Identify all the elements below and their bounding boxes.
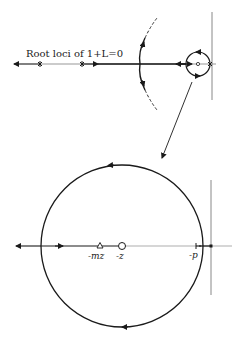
bottom-circle-arrow-top — [108, 165, 114, 166]
top-zero-marker — [196, 62, 199, 65]
magnify-connector-arrow — [162, 82, 192, 158]
top-root-locus-plot — [14, 12, 216, 110]
z-label: -z — [116, 252, 124, 261]
top-arc-lower-dashed — [145, 90, 157, 110]
bottom-root-locus-plot — [16, 165, 232, 327]
bottom-origin-pole-mark — [210, 245, 213, 248]
root-loci-title-label: Root loci of 1+L=0 — [26, 49, 123, 59]
bottom-z-zero-marker — [119, 243, 126, 250]
p-label: -p — [189, 251, 198, 260]
bottom-mz-triangle-marker — [97, 243, 103, 249]
top-arc-upper-dashed — [145, 18, 157, 38]
root-locus-figure: Root loci of 1+L=0 -mz -z -p — [0, 0, 237, 341]
mz-label: -mz — [88, 252, 104, 261]
